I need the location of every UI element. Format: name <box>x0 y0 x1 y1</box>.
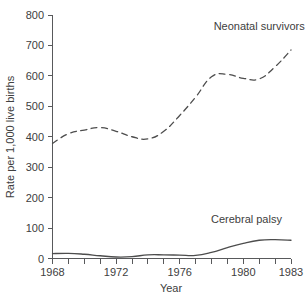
y-axis-ticks <box>48 15 53 259</box>
x-tick-label: 1980 <box>231 266 255 278</box>
series-line-0 <box>53 50 292 143</box>
series-annotation-1: Cerebral palsy <box>211 213 282 225</box>
x-tick-label: 1976 <box>167 266 191 278</box>
y-tick-label: 600 <box>26 70 44 82</box>
series-line-1 <box>53 240 292 257</box>
y-tick-label: 300 <box>26 161 44 173</box>
x-axis-ticks <box>53 259 292 264</box>
x-tick-label: 1983 <box>279 266 303 278</box>
chart-container: 0100200300400500600700800 19681972197619… <box>0 0 307 296</box>
y-tick-label: 500 <box>26 100 44 112</box>
x-axis-group: 19681972197619801983 <box>40 259 303 279</box>
y-tick-label: 700 <box>26 39 44 51</box>
x-tick-label: 1968 <box>40 266 64 278</box>
y-axis-group: 0100200300400500600700800 <box>26 9 53 265</box>
series-annotation-0: Neonatal survivors <box>214 20 306 32</box>
y-axis-title: Rate per 1,000 live births <box>4 75 16 198</box>
x-axis-title: Year <box>160 282 183 294</box>
x-axis-tick-labels: 19681972197619801983 <box>40 266 303 278</box>
x-tick-label: 1972 <box>104 266 128 278</box>
y-tick-label: 0 <box>38 253 44 265</box>
y-axis-tick-labels: 0100200300400500600700800 <box>26 9 44 265</box>
y-tick-label: 100 <box>26 222 44 234</box>
series-group <box>53 50 292 257</box>
line-chart: 0100200300400500600700800 19681972197619… <box>0 0 307 296</box>
y-tick-label: 200 <box>26 192 44 204</box>
y-tick-label: 400 <box>26 131 44 143</box>
series-annotations: Neonatal survivorsCerebral palsy <box>211 20 305 224</box>
y-tick-label: 800 <box>26 9 44 21</box>
